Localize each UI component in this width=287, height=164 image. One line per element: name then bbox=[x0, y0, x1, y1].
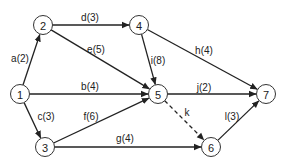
edges-layer bbox=[23, 25, 259, 147]
nodes-layer: 1234567 bbox=[11, 16, 276, 157]
edge-label-h: h(4) bbox=[195, 45, 213, 56]
edge-label-l: l(3) bbox=[225, 111, 239, 122]
node-label-3: 3 bbox=[42, 142, 48, 154]
edge-label-j: j(2) bbox=[196, 82, 211, 93]
node-label-5: 5 bbox=[155, 89, 161, 101]
edge-label-k: k bbox=[185, 107, 191, 118]
node-label-1: 1 bbox=[17, 89, 23, 101]
node-6: 6 bbox=[202, 138, 221, 157]
node-7: 7 bbox=[257, 85, 276, 104]
edge-label-f: f(6) bbox=[84, 111, 99, 122]
node-1: 1 bbox=[11, 85, 30, 104]
edge-label-g: g(4) bbox=[116, 133, 134, 144]
node-2: 2 bbox=[34, 16, 53, 35]
node-label-4: 4 bbox=[136, 20, 142, 32]
edge-f-arrow bbox=[54, 98, 149, 143]
edge-label-c: c(3) bbox=[37, 111, 54, 122]
edge-label-e: e(5) bbox=[87, 44, 105, 55]
edge-e-arrow bbox=[51, 30, 149, 89]
node-5: 5 bbox=[149, 85, 168, 104]
node-4: 4 bbox=[130, 16, 149, 35]
edge-label-i: i(8) bbox=[151, 55, 165, 66]
node-label-6: 6 bbox=[208, 142, 214, 154]
network-diagram: a(2)b(4)c(3)d(3)e(5)f(6)g(4)h(4)i(8)j(2)… bbox=[0, 0, 287, 164]
edge-label-d: d(3) bbox=[81, 12, 99, 23]
node-label-2: 2 bbox=[40, 20, 46, 32]
node-label-7: 7 bbox=[263, 89, 269, 101]
edge-label-b: b(4) bbox=[81, 81, 99, 92]
node-3: 3 bbox=[36, 138, 55, 157]
edge-label-a: a(2) bbox=[11, 53, 29, 64]
